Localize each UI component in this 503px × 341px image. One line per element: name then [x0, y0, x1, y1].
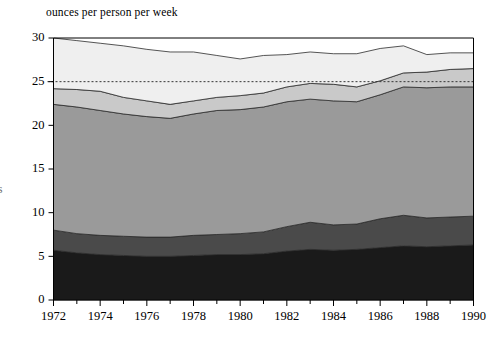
x-tick-label-1982: 1982	[274, 309, 299, 323]
x-tick-label-1988: 1988	[414, 309, 439, 323]
y-tick-label-5: 5	[38, 249, 44, 263]
x-tick-label-1986: 1986	[368, 309, 393, 323]
stacked-area-plot: 051015202530 197219741976197819801982198…	[0, 0, 503, 341]
chart-figure: ounces per person per week s 05101520253…	[0, 0, 503, 341]
x-axis-ticks: 1972197419761978198019821984198619881990	[41, 300, 486, 323]
y-tick-label-20: 20	[32, 118, 45, 132]
x-tick-label-1978: 1978	[181, 309, 206, 323]
y-tick-label-0: 0	[38, 292, 44, 306]
x-tick-label-1976: 1976	[134, 309, 159, 323]
area-bands-group	[54, 38, 474, 300]
x-tick-label-1974: 1974	[88, 309, 114, 323]
x-tick-label-1972: 1972	[41, 309, 66, 323]
y-tick-label-10: 10	[32, 205, 45, 219]
x-tick-label-1980: 1980	[228, 309, 253, 323]
y-tick-label-25: 25	[32, 74, 45, 88]
y-tick-label-15: 15	[32, 161, 45, 175]
y-axis-ticks: 051015202530	[32, 30, 54, 306]
x-tick-label-1990: 1990	[461, 309, 486, 323]
x-tick-label-1984: 1984	[321, 309, 347, 323]
y-tick-label-30: 30	[32, 30, 45, 44]
